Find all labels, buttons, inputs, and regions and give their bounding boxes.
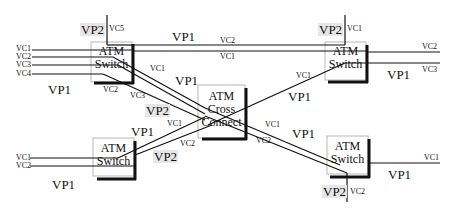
switch-top-right-label: ATM Switch — [325, 45, 366, 71]
vp-label: VP1 — [131, 125, 154, 138]
vc-label: VC1 — [150, 65, 165, 73]
node-label-line: Switch — [325, 58, 366, 71]
vc-label: VC1 — [220, 53, 235, 61]
vc-label: VC1 — [167, 120, 182, 128]
vp-label: VP2 — [153, 150, 178, 163]
node-label-line: Connect — [198, 116, 245, 129]
vp-label: VP1 — [288, 90, 311, 103]
vp-label: VP2 — [322, 185, 347, 198]
switch-top-left-label: ATM Switch — [91, 45, 132, 71]
vp-label: VP1 — [388, 168, 411, 181]
vc-label: VC5 — [109, 25, 124, 33]
switch-bottom-left-label: ATM Switch — [93, 142, 134, 168]
vc-label: VC2 — [422, 43, 437, 51]
vc-label: VC2 — [103, 86, 118, 94]
vp-label: VP1 — [175, 74, 198, 87]
vp-label: VP1 — [387, 68, 410, 81]
node-label-line: Switch — [93, 155, 134, 168]
vc-label: VC2 — [256, 137, 271, 145]
vc-label: VC1 — [265, 121, 280, 129]
vc-label: VC1 — [424, 154, 439, 162]
vp-label: VP2 — [80, 23, 105, 36]
vp-label: VP1 — [172, 30, 195, 43]
vc-label: VC3 — [16, 61, 31, 69]
vc-label: VC1 — [347, 25, 362, 33]
atm-network-diagram: ATM Switch ATM Switch ATM Switch ATM Swi… — [0, 0, 450, 209]
vc-label: VC3 — [422, 66, 437, 74]
cross-connect-label: ATM Cross Connect — [198, 90, 245, 129]
vp-label: VP1 — [292, 127, 315, 140]
node-label-line: Switch — [91, 58, 132, 71]
vp-label: VP2 — [318, 23, 343, 36]
vc-label: VC4 — [16, 70, 31, 78]
vp-label: VP2 — [145, 104, 170, 117]
vc-label: VC2 — [350, 188, 365, 196]
vp-label: VP1 — [48, 83, 71, 96]
vc-label: VC1 — [296, 72, 311, 80]
vc-label: VC3 — [130, 92, 145, 100]
node-label-line: Switch — [327, 153, 368, 166]
vc-label: VC2 — [16, 162, 31, 170]
vp-label: VP1 — [52, 178, 75, 191]
switch-bottom-right-label: ATM Switch — [327, 140, 368, 166]
vc-label: VC2 — [180, 140, 195, 148]
vc-label: VC2 — [220, 37, 235, 45]
